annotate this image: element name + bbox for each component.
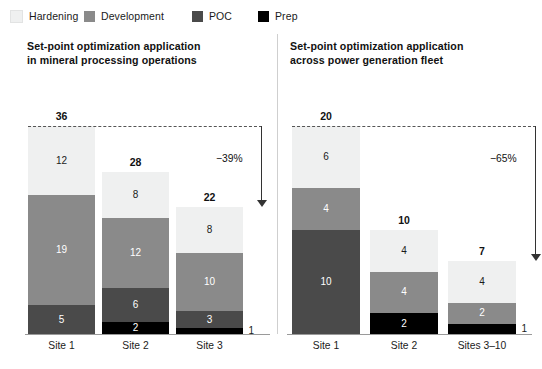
bar-segment-poc[interactable]: 3 <box>176 311 243 328</box>
chart-panel-mineral-processing: Set-point optimization application in mi… <box>0 30 277 369</box>
bar-total-label: 20 <box>292 110 360 122</box>
segment-value-label: 6 <box>323 152 329 162</box>
x-axis-line-right <box>287 334 532 335</box>
segment-value-label: 2 <box>479 308 485 318</box>
plot-area-left: 3612195Site 12881262Site 22281031Site 3−… <box>0 30 277 369</box>
legend-swatch-poc-icon <box>192 11 203 22</box>
segment-value-label: 2 <box>133 323 139 333</box>
legend-label-poc: POC <box>209 10 232 22</box>
segment-value-label: 19 <box>56 245 67 255</box>
arrow-stem <box>535 126 536 255</box>
change-arrow-icon <box>530 126 542 261</box>
bar-segment-hardening[interactable]: 8 <box>102 172 169 218</box>
bar-segment-hardening[interactable]: 4 <box>370 230 438 272</box>
segment-value-label: 4 <box>479 277 485 287</box>
segment-value-label: 1 <box>521 324 527 334</box>
category-label: Site 1 <box>292 340 360 351</box>
bar-total-label: 22 <box>176 191 243 203</box>
legend-item-prep[interactable]: Prep <box>258 10 298 22</box>
bar-segment-development[interactable]: 10 <box>176 253 243 311</box>
bar-segment-prep[interactable]: 1 <box>448 324 516 334</box>
bar-total-label: 10 <box>370 214 438 226</box>
change-arrow-icon <box>256 126 268 207</box>
category-label: Site 2 <box>370 340 438 351</box>
arrow-head <box>531 254 541 261</box>
change-percentage-label: −39% <box>216 153 243 164</box>
segment-value-label: 12 <box>130 248 141 258</box>
bar-segment-development[interactable]: 2 <box>448 303 516 324</box>
bar-segment-prep[interactable]: 1 <box>176 328 243 334</box>
bar-segment-development[interactable]: 19 <box>28 195 95 305</box>
category-label: Site 2 <box>102 340 169 351</box>
arrow-head <box>257 200 267 207</box>
bar-segment-prep[interactable]: 2 <box>102 322 169 334</box>
category-label: Site 3 <box>176 340 243 351</box>
bar-stack[interactable]: 2881262 <box>102 172 169 334</box>
legend-label-prep: Prep <box>275 10 298 22</box>
bar-stack[interactable]: 206410 <box>292 126 360 334</box>
category-label: Site 1 <box>28 340 95 351</box>
bar-segment-poc[interactable]: 6 <box>102 288 169 323</box>
segment-value-label: 4 <box>401 287 407 297</box>
bar-segment-hardening[interactable]: 8 <box>176 207 243 253</box>
bar-segment-poc[interactable]: 5 <box>28 305 95 334</box>
change-percentage-label: −65% <box>490 153 517 164</box>
segment-value-label: 10 <box>320 277 331 287</box>
arrow-stem <box>261 126 262 201</box>
segment-value-label: 12 <box>56 156 67 166</box>
legend-label-development: Development <box>101 10 164 22</box>
legend-swatch-prep-icon <box>258 11 269 22</box>
bar-segment-hardening[interactable]: 6 <box>292 126 360 188</box>
bar-total-label: 36 <box>28 110 95 122</box>
bar-segment-prep[interactable]: 2 <box>370 313 438 334</box>
bar-segment-development[interactable]: 4 <box>292 188 360 230</box>
x-axis-line-left <box>25 334 270 335</box>
segment-value-label: 6 <box>133 300 139 310</box>
bar-stack[interactable]: 2281031 <box>176 207 243 334</box>
segment-value-label: 1 <box>248 326 254 336</box>
chart-legend: HardeningDevelopmentPOCPrep <box>0 6 542 26</box>
segment-value-label: 4 <box>323 204 329 214</box>
bar-stack[interactable]: 7421 <box>448 261 516 334</box>
legend-item-hardening[interactable]: Hardening <box>10 10 78 23</box>
bar-stack[interactable]: 3612195 <box>28 126 95 334</box>
segment-value-label: 4 <box>401 246 407 256</box>
segment-value-label: 3 <box>207 315 213 325</box>
category-label: Sites 3–10 <box>448 340 516 351</box>
bar-segment-hardening[interactable]: 4 <box>448 261 516 303</box>
bar-total-label: 7 <box>448 245 516 257</box>
bar-segment-development[interactable]: 4 <box>370 272 438 314</box>
bar-segment-poc[interactable]: 10 <box>292 230 360 334</box>
segment-value-label: 10 <box>204 277 215 287</box>
legend-item-poc[interactable]: POC <box>192 10 232 22</box>
bar-total-label: 28 <box>102 156 169 168</box>
segment-value-label: 8 <box>133 190 139 200</box>
chart-panel-power-generation: Set-point optimization application acros… <box>277 30 542 369</box>
reference-dashed-line <box>28 126 262 127</box>
bar-segment-development[interactable]: 12 <box>102 218 169 287</box>
reference-dashed-line <box>292 126 536 127</box>
segment-value-label: 2 <box>401 319 407 329</box>
segment-value-label: 8 <box>207 225 213 235</box>
legend-label-hardening: Hardening <box>29 10 78 22</box>
legend-swatch-development-icon <box>84 11 95 22</box>
legend-swatch-hardening-icon <box>10 10 23 23</box>
segment-value-label: 5 <box>59 315 65 325</box>
bar-segment-hardening[interactable]: 12 <box>28 126 95 195</box>
bar-stack[interactable]: 10442 <box>370 230 438 334</box>
plot-area-right: 206410Site 110442Site 27421Sites 3–10−65… <box>277 30 542 369</box>
legend-item-development[interactable]: Development <box>84 10 164 22</box>
